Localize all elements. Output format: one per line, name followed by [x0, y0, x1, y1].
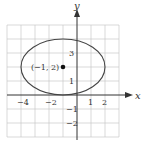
y-tick-label: 1 — [69, 77, 74, 86]
y-tick-label: −2 — [66, 119, 78, 128]
y-axis-label: y — [73, 0, 80, 11]
y-tick-label: 3 — [69, 49, 74, 58]
center-point — [61, 65, 66, 70]
y-tick-label: −1 — [66, 105, 78, 114]
x-axis-arrow-icon — [125, 92, 133, 98]
x-tick-label: 1 — [88, 98, 93, 107]
x-tick-label: −2 — [45, 98, 57, 107]
x-tick-label: 2 — [102, 98, 107, 107]
x-axis-label: x — [135, 90, 141, 101]
ellipse-graph: x y (−1, 2) −4 −2 1 2 3 1 −1 −2 — [0, 0, 141, 142]
x-tick-label: −4 — [17, 98, 29, 107]
center-point-label: (−1, 2) — [31, 63, 59, 72]
grid — [7, 25, 119, 137]
